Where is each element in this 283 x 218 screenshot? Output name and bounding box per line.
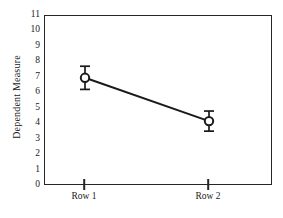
y-tick-label: 6 <box>26 88 40 98</box>
x-tick-mark <box>207 179 209 190</box>
y-tick-label: 2 <box>26 149 40 159</box>
y-tick-label: 4 <box>26 118 40 128</box>
y-tick-label: 9 <box>26 41 40 51</box>
data-point-marker <box>205 117 213 125</box>
y-tick-label: 3 <box>26 134 40 144</box>
y-tick-label: 8 <box>26 57 40 67</box>
y-axis-title: Dependent Measure <box>8 2 24 192</box>
y-tick-label: 0 <box>26 180 40 190</box>
chart-figure: Dependent Measure 01234567891011 Row 1Ro… <box>0 0 283 218</box>
y-tick-label: 7 <box>26 72 40 82</box>
y-tick-label: 11 <box>26 10 40 20</box>
y-tick-label: 10 <box>26 26 40 36</box>
series-line <box>85 78 209 121</box>
plot-inner <box>45 16 271 184</box>
x-tick-label: Row 2 <box>195 191 220 201</box>
y-tick-label: 1 <box>26 165 40 175</box>
y-axis-tick-labels: 01234567891011 <box>24 15 40 185</box>
x-tick-mark <box>83 179 85 190</box>
x-tick-label: Row 1 <box>71 191 96 201</box>
data-series-layer <box>45 16 273 186</box>
plot-area <box>44 15 272 185</box>
data-point-marker <box>81 74 89 82</box>
y-tick-label: 5 <box>26 103 40 113</box>
